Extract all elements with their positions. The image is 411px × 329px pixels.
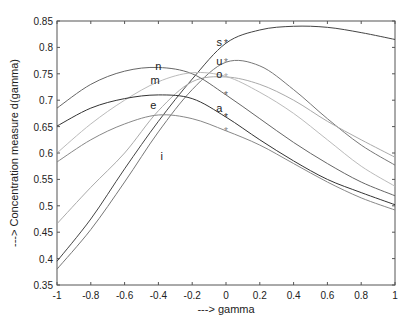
y-tick-label: 0.8 <box>39 42 53 53</box>
y-axis-label: ---> Concentration measure d(gamma) <box>8 59 20 247</box>
x-tick-label: 0.2 <box>253 290 267 301</box>
y-tick-label: 0.65 <box>34 122 54 133</box>
y-tick-label: 0.85 <box>34 16 54 27</box>
curve-label-i: i <box>161 150 163 162</box>
curve-label-u: u <box>216 55 222 67</box>
x-tick-label: -0.2 <box>184 290 202 301</box>
line-chart: ****** -1-0.8-0.6-0.4-0.200.20.40.60.810… <box>0 0 411 329</box>
x-tick-label: 1 <box>392 290 398 301</box>
curve-label-o: o <box>216 68 222 80</box>
x-tick-label: -0.4 <box>150 290 168 301</box>
star-marker: * <box>224 112 228 123</box>
curve-label-m: m <box>150 74 159 86</box>
y-tick-label: 0.7 <box>39 95 53 106</box>
y-tick-label: 0.55 <box>34 174 54 185</box>
star-marker: * <box>224 38 228 49</box>
curve-label-a: a <box>216 102 223 114</box>
x-tick-label: -0.6 <box>116 290 134 301</box>
x-tick-label: 0.8 <box>354 290 368 301</box>
y-tick-label: 0.35 <box>34 280 54 291</box>
y-tick-label: 0.4 <box>39 254 53 265</box>
x-tick-label: -0.8 <box>82 290 100 301</box>
y-tick-label: 0.6 <box>39 148 53 159</box>
star-marker: * <box>224 90 228 101</box>
x-tick-label: 0.6 <box>320 290 334 301</box>
curve-label-s: s <box>216 36 222 48</box>
star-marker: * <box>224 72 228 83</box>
curve-label-n: n <box>155 60 161 72</box>
y-tick-label: 0.45 <box>34 227 54 238</box>
x-tick-label: -1 <box>53 290 62 301</box>
x-tick-label: 0 <box>223 290 229 301</box>
star-marker: * <box>224 126 228 137</box>
curve-label-e: e <box>150 99 156 111</box>
y-tick-label: 0.5 <box>39 201 53 212</box>
x-tick-label: 0.4 <box>287 290 301 301</box>
y-tick-label: 0.75 <box>34 69 54 80</box>
x-axis-label: ---> gamma <box>197 303 255 315</box>
star-marker: * <box>224 57 228 68</box>
